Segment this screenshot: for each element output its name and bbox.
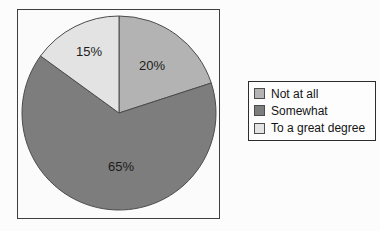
legend-swatch-not-at-all	[254, 88, 265, 99]
legend-item-to-a-great-degree: To a great degree	[254, 122, 370, 134]
pie-chart-frame: 20%65%15%	[17, 9, 220, 219]
legend-item-not-at-all: Not at all	[254, 88, 370, 100]
pie-chart: 20%65%15%	[18, 10, 219, 218]
pie-slice-label-2: 15%	[76, 44, 102, 59]
legend-label: Somewhat	[271, 105, 328, 117]
legend-item-somewhat: Somewhat	[254, 105, 370, 117]
legend-swatch-somewhat	[254, 105, 265, 116]
figure-canvas: 20%65%15% Not at all Somewhat To a great…	[0, 0, 380, 231]
pie-slice-label-0: 20%	[139, 58, 165, 73]
legend-label: Not at all	[271, 88, 318, 100]
pie-slice-label-1: 65%	[108, 159, 134, 174]
legend-box: Not at all Somewhat To a great degree	[248, 81, 376, 141]
legend-label: To a great degree	[271, 122, 365, 134]
legend-swatch-to-a-great-degree	[254, 123, 265, 134]
